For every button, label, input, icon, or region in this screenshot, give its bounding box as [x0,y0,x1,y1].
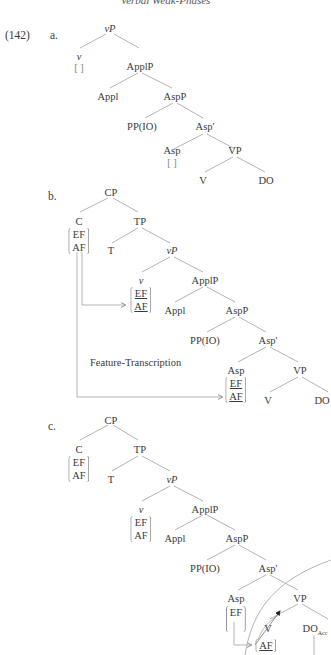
node-b-Asp: Asp [228,365,245,377]
node-c-v: v [139,504,144,516]
feature-transcription-annotation: Feature-Transcription [90,356,181,369]
node-b-T: T [108,245,114,257]
node-c-CP: CP [105,415,118,427]
node-a-DO: DO [258,175,273,187]
subexample-a-label: a. [50,29,58,42]
node-b-PP-IO: PP(IO) [190,335,220,347]
node-b-TP: TP [134,216,146,228]
empty-feature-bracket-a-v: [ ] [74,62,84,74]
feature-bundle-c-v-af: AF [255,639,276,652]
node-b-AspP: AspP [226,305,249,317]
node-c-Appl: Appl [165,533,186,545]
node-b-V: V [264,395,272,407]
node-b-AspBar: Asp' [259,335,278,347]
node-a-ApplP: ApplP [127,61,154,73]
node-c-V: V [264,623,272,635]
feature-bundle-c-asp: EF [226,606,246,632]
node-a-V: V [199,175,207,187]
node-c-TP: TP [134,444,146,456]
node-b-Appl: Appl [165,305,186,317]
example-number: (142) [5,29,30,42]
node-c-AspP: AspP [226,533,249,545]
node-c-DO-acc: DOAcc [303,623,328,639]
node-a-Asp: Asp [164,145,181,157]
node-b-ApplP: ApplP [192,275,219,287]
node-c-AspBar: Asp' [259,563,278,575]
node-a-AspBar: Asp' [196,121,215,133]
node-b-C: C [75,216,82,228]
node-b-vP: vP [166,245,177,257]
node-b-CP: CP [105,187,118,199]
feature-bundle-c-v: EFAF [130,516,151,542]
empty-feature-bracket-a-asp: [ ] [167,157,177,169]
node-b-DO: DO [314,395,329,407]
node-c-C: C [75,444,82,456]
node-c-PP-IO: PP(IO) [190,563,220,575]
node-c-VP: VP [293,593,306,605]
feature-bundle-b-C: EFAF [68,228,89,254]
feature-bundle-b-v: EFAF [130,287,151,313]
feature-bundle-c-C: EFAF [68,456,89,482]
node-c-vP: vP [166,474,177,486]
node-a-AspP: AspP [164,91,187,103]
node-c-T: T [108,474,114,486]
node-a-PP-IO: PP(IO) [127,121,157,133]
subexample-c-label: c. [48,420,56,433]
node-a-vP: vP [104,23,115,35]
subexample-b-label: b. [48,190,57,203]
node-c-Asp: Asp [228,593,245,605]
feature-bundle-b-asp: EFAF [225,377,246,403]
node-b-v: v [139,275,144,287]
node-c-ApplP: ApplP [192,504,219,516]
node-a-Appl: Appl [98,91,119,103]
node-b-VP: VP [293,365,306,377]
node-a-VP: VP [228,145,241,157]
